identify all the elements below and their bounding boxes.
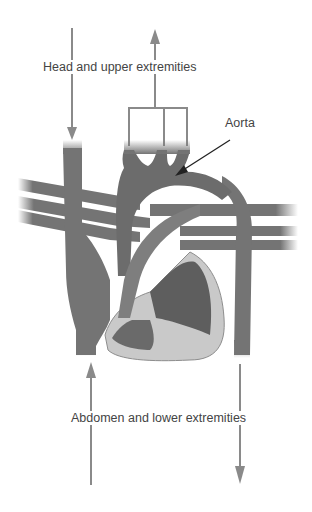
heart-diagram bbox=[0, 0, 312, 512]
arrow-down-superior-vena-cava bbox=[67, 28, 77, 140]
arrow-up-aorta-branches bbox=[129, 29, 188, 146]
vena-cava-right-atrium bbox=[63, 148, 110, 355]
label-abdomen-lower-extremities: Abdomen and lower extremities bbox=[70, 411, 247, 425]
descending-aorta bbox=[222, 176, 252, 355]
label-aorta: Aorta bbox=[224, 116, 256, 130]
label-head-upper-extremities: Head and upper extremities bbox=[42, 60, 198, 74]
